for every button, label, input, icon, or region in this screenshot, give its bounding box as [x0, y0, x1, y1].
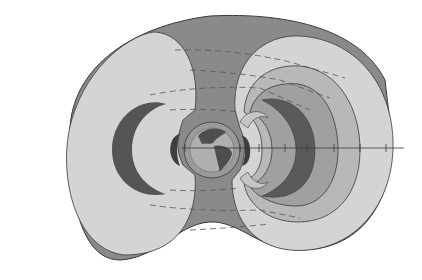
diagram-canvas	[0, 0, 422, 280]
earth	[184, 122, 240, 178]
radiation-belt-diagram	[0, 0, 422, 280]
